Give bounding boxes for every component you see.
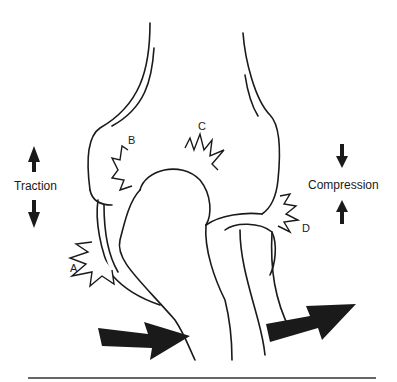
injury-burst-d-icon bbox=[278, 194, 298, 232]
site-label-a: A bbox=[70, 262, 77, 274]
trochlea bbox=[140, 169, 210, 225]
injury-burst-b-icon bbox=[112, 146, 132, 190]
injury-burst-c-icon bbox=[185, 134, 224, 170]
ulna-outline-right bbox=[206, 225, 232, 360]
medial-ligament bbox=[97, 200, 160, 305]
radius-head bbox=[225, 224, 275, 275]
radius-shaft-right bbox=[272, 232, 290, 330]
humerus-outline-right bbox=[243, 33, 280, 214]
site-label-d: D bbox=[302, 222, 310, 234]
force-arrow-left-icon bbox=[98, 322, 190, 360]
site-label-b: B bbox=[128, 134, 135, 146]
capitellum bbox=[206, 213, 262, 225]
site-label-c: C bbox=[198, 120, 206, 132]
humerus-inner-line-right bbox=[245, 75, 258, 116]
compression-label: Compression bbox=[308, 178, 379, 192]
radius-shaft bbox=[240, 230, 265, 355]
humerus-lower-edge bbox=[90, 190, 112, 205]
force-arrow-right-icon bbox=[266, 304, 356, 342]
traction-label: Traction bbox=[14, 179, 57, 193]
